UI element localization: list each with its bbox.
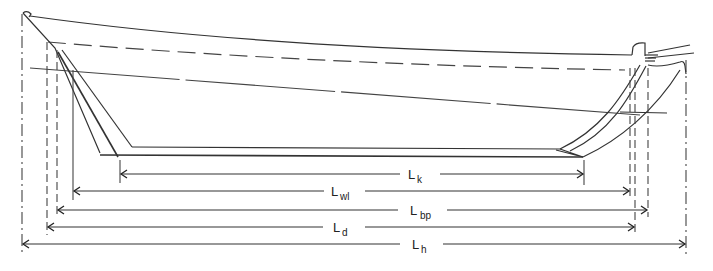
keel-fillet [556,149,583,157]
label-lh-main: L [412,237,419,252]
rudder-head [632,43,645,56]
label-lbp-main: L [410,203,417,218]
label-lk-sub: k [417,174,423,185]
label-lbp-sub: bp [420,210,432,221]
waterline [30,68,640,115]
dimension-lwl: L wl [74,184,629,202]
stem-outer [23,13,100,153]
sheer-line [30,16,632,55]
rudder-blade [648,62,686,75]
label-ld-main: L [333,220,340,235]
deck-dashed-line [48,42,625,70]
keel-top [132,147,560,149]
hull-diagram: L k L wl L bp L d L h [0,0,713,271]
label-lwl-sub: wl [339,191,349,202]
tiller-upper [648,45,690,53]
label-ld-sub: d [342,227,348,238]
label-lwl-main: L [331,184,338,199]
label-lk-main: L [408,167,415,182]
dimension-lbp: L bp [58,203,647,221]
keel-bottom [100,155,583,157]
stem-inner [58,52,118,157]
label-lh-sub: h [421,244,427,255]
sternpost-inner [560,65,640,149]
waterline-aft-tick [620,112,667,113]
dimension-lk: L k [121,167,583,185]
dimension-ld: L d [48,220,634,238]
dimension-lh: L h [23,237,685,255]
